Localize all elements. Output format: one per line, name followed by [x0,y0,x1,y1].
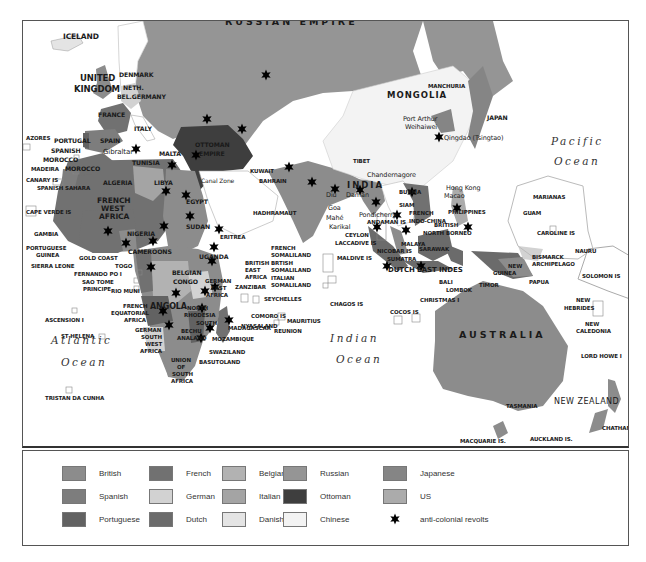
legend-item-danish: Danish [222,511,284,527]
map-legend: British Spanish Portuguese French German… [22,450,629,546]
label-macao: Macao [444,193,465,200]
label-bahrain: BAHRAIN [259,179,287,185]
label-andaman: ANDAMAN IS [367,220,406,226]
label-spain: SPAIN [100,138,120,145]
swatch-belgian [222,466,246,481]
label-ottoman-2: EMPIRE [199,151,225,158]
label-bismarck-2: ARCHIPELAGO [532,262,575,268]
label-belgian-congo-2: CONGO [173,279,198,286]
swatch-french [149,466,173,481]
label-bea-2: EAST [245,268,260,274]
swatch-danish [222,512,246,527]
label-morocco: MOROCCO [65,166,100,173]
label-gea-3: AFRICA [206,293,228,299]
label-union-sa-1: UNION [171,358,191,364]
label-gold-coast: GOLD COAST [79,256,118,262]
label-guam: GUAM [523,211,541,217]
label-burma: BURMA [399,190,421,196]
label-philippines: PHILIPPINES [448,210,486,216]
label-sierra-leone: SIERRA LEONE [31,264,75,270]
legend-item-portuguese: Portuguese [62,511,140,527]
label-azores: AZORES [26,136,50,142]
legend-item-chinese: Chinese [283,511,349,527]
label-iceland: ICELAND [63,33,99,41]
label-japan: JAPAN [487,115,508,122]
label-swaziland: SWAZILAND [209,350,245,356]
label-laccadive: LACCADIVE IS [335,241,376,247]
legend-item-french: French [149,465,211,481]
label-libya: LIBYA [154,180,173,187]
label-cameroons: CAMEROONS [128,249,172,256]
legend-item-italian: Italian [222,488,280,504]
label-bea-3: AFRICA [245,275,267,281]
label-goa: Goa [328,205,341,212]
label-bechuanaland-2: ANALAND [177,336,206,342]
label-russian-empire: RUSSIAN EMPIRE [225,20,358,27]
label-italy: ITALY [134,126,152,133]
label-togo: TOGO [115,264,132,270]
label-egypt: EGYPT [186,199,208,206]
label-siam: SIAM [399,203,414,209]
label-christmas: CHRISTMAS I [420,298,459,304]
swatch-british [62,466,86,481]
swatch-german [149,489,173,504]
label-basutoland: BASUTOLAND [199,360,240,366]
label-uk-1: UNITED [80,74,115,83]
label-zanzibar: ZANZIBAR [235,285,266,291]
label-gibraltar: Gibraltar [103,149,133,156]
label-canary: CANARY IS [26,178,58,184]
label-maldive: MALDIVE IS [337,256,372,262]
label-fea-2: EQUATORIAL [111,311,149,317]
label-pacific-ocean: Ocean [554,156,600,167]
label-eritrea: ERITREA [220,235,245,241]
label-qingdao: Qingdao (Tsingtao) [444,135,503,142]
label-australia: AUSTRALIA [459,330,546,340]
swatch-dutch [149,512,173,527]
label-nauru: NAURU [575,249,596,255]
label-british-somaliland-1: BRTISH [271,261,293,267]
label-new-guinea-2: GUINEA [493,271,516,277]
legend-item-ottoman: Ottoman [283,488,351,504]
label-bnb-1: BRITISH [434,223,458,229]
label-nigeria: NIGERIA [127,231,155,238]
label-pondicherry: Pondicherry [359,212,396,219]
label-comoro: COMORO IS [251,314,286,320]
label-fea-3: AFRICA [124,318,146,324]
label-denmark: DENMARK [119,72,153,79]
label-tristan: TRISTAN DA CUNHA [45,396,104,402]
label-sudan: SUDAN [186,224,210,231]
label-sao-tome: SAO TOME [82,280,114,286]
label-karikal: Karikal [329,224,350,231]
label-port-arthur: Port Arthur [403,116,437,123]
label-union-sa-2: OF [177,365,185,371]
label-solomon: SOLOMON IS [582,274,620,280]
label-ottoman-1: OTTOMAN [195,142,230,149]
label-bel-germany: BEL.GERMANY [117,94,166,101]
label-auckland: AUCKLAND IS. [530,437,573,443]
label-papua: PAPUA [529,280,549,286]
label-french-somaliland-2: SOMALILAND [271,253,311,259]
label-mozambique: MOZAMBIQUE [212,337,254,343]
label-portugal: PORTUGAL [54,138,91,145]
swatch-portuguese [62,512,86,527]
label-indian-ocean: Ocean [336,354,382,365]
label-new-caledonia-1: NEW [585,322,599,328]
label-ascension: ASCENSION I [45,318,84,324]
label-france: FRANCE [98,112,125,119]
label-union-sa-3: SOUTH [172,372,193,378]
label-italian-somaliland-2: SOMALILAND [271,283,311,289]
label-daman: Daman [346,192,369,199]
label-uganda: UGANDA [199,254,228,261]
label-gswa-2: SOUTH [141,335,162,341]
label-italian-somaliland-1: ITALIAN [271,276,294,282]
label-hadhramaut: HADHRAMAUT [253,211,296,217]
label-new-guinea-1: NEW [508,264,522,270]
label-chagos: CHAGOS IS [330,302,363,308]
label-fea-1: FRENCH [123,304,147,310]
label-seychelles: SEYCHELLES [264,297,302,303]
legend-item-spanish: Spanish [62,488,128,504]
label-bnb-2: NORTH BORNEO [423,231,471,237]
label-gambia: GAMBIA [34,232,58,238]
label-caroline: CAROLINE IS [537,231,575,237]
label-reunion: REUNION [274,329,302,335]
